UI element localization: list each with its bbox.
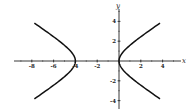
- x-tick-label: 4: [161, 63, 165, 69]
- x-tick-label: 2: [139, 63, 143, 69]
- x-axis-label: x: [182, 57, 186, 65]
- y-tick-label: 2: [112, 38, 116, 44]
- y-tick-label: -4: [110, 98, 116, 104]
- y-axis-label: y: [115, 2, 121, 10]
- x-tick-label: -6: [51, 63, 57, 69]
- y-tick-label: 4: [112, 18, 116, 24]
- y-tick-label: -2: [110, 78, 116, 84]
- x-tick-label: -4: [72, 63, 78, 69]
- hyperbola-chart: -8-6-4-22442-2-4 x y: [0, 0, 194, 110]
- x-tick-label: -8: [29, 63, 35, 69]
- x-tick-label: -2: [94, 63, 100, 69]
